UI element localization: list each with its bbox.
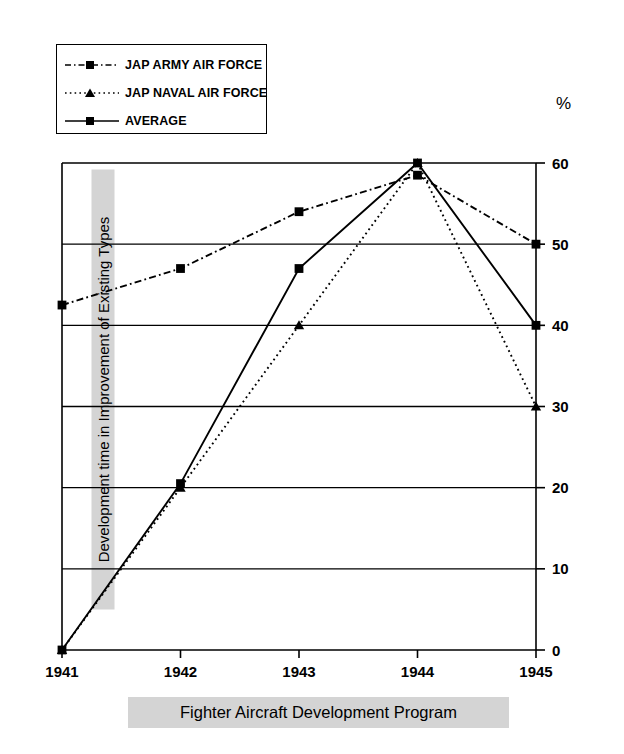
chart-legend: JAP ARMY AIR FORCE JAP NAVAL AIR FORCE A… (56, 44, 267, 134)
svg-text:30: 30 (552, 398, 569, 415)
svg-text:40: 40 (552, 317, 569, 334)
svg-text:0: 0 (552, 642, 560, 659)
svg-text:10: 10 (552, 560, 569, 577)
y-tick-labels: 0102030405060 (552, 155, 569, 659)
legend-item-naval: JAP NAVAL AIR FORCE (57, 79, 266, 107)
chart-title-text: Fighter Aircraft Development Program (180, 703, 457, 722)
legend-label-naval: JAP NAVAL AIR FORCE (125, 86, 267, 100)
svg-text:60: 60 (552, 155, 569, 172)
svg-text:20: 20 (552, 479, 569, 496)
legend-swatch-army (65, 58, 119, 72)
svg-text:1942: 1942 (164, 663, 197, 680)
legend-label-army: JAP ARMY AIR FORCE (125, 58, 262, 72)
chart-title: Fighter Aircraft Development Program (128, 697, 509, 728)
svg-text:50: 50 (552, 236, 569, 253)
legend-swatch-naval (65, 86, 119, 100)
legend-label-average: AVERAGE (125, 114, 187, 128)
gridlines (62, 163, 536, 650)
legend-item-army: JAP ARMY AIR FORCE (57, 51, 266, 79)
svg-text:1941: 1941 (45, 663, 78, 680)
x-tick-marks (62, 650, 536, 658)
legend-item-average: AVERAGE (57, 107, 266, 135)
svg-text:1943: 1943 (282, 663, 315, 680)
chart-container: JAP ARMY AIR FORCE JAP NAVAL AIR FORCE A… (0, 0, 624, 754)
x-tick-labels: 19411942194319441945 (45, 663, 552, 680)
legend-swatch-average (65, 114, 119, 128)
svg-text:1944: 1944 (401, 663, 435, 680)
svg-text:1945: 1945 (519, 663, 552, 680)
